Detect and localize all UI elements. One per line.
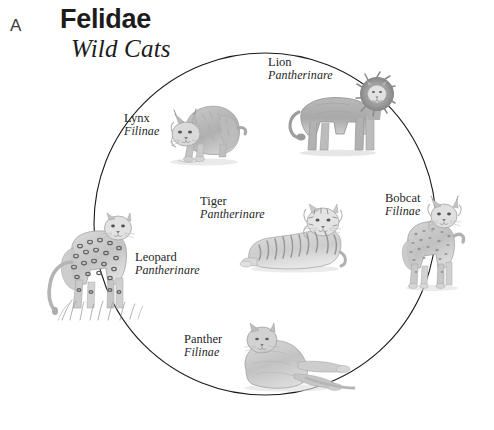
illustration-panther xyxy=(236,318,356,402)
illustration-lynx xyxy=(158,84,250,172)
species-label-lynx: Lynx Filinae xyxy=(124,112,159,137)
species-subfamily-lion: Pantherinare xyxy=(268,69,333,81)
species-subfamily-lynx: Filinae xyxy=(124,125,159,137)
species-subfamily-tiger: Pantherinare xyxy=(200,208,265,220)
species-subfamily-panther: Filinae xyxy=(184,346,222,358)
species-label-leopard: Leopard Pantherinare xyxy=(135,251,200,276)
species-label-tiger: Tiger Pantherinare xyxy=(200,195,265,220)
species-subfamily-leopard: Pantherinare xyxy=(135,264,200,276)
species-label-panther: Panther Filinae xyxy=(184,333,222,358)
species-label-lion: Lion Pantherinare xyxy=(268,56,333,81)
species-subfamily-bobcat: Filinae xyxy=(385,205,420,217)
figure-panel: A Felidae Wild Cats xyxy=(0,0,494,430)
species-label-bobcat: Bobcat Filinae xyxy=(385,192,420,217)
